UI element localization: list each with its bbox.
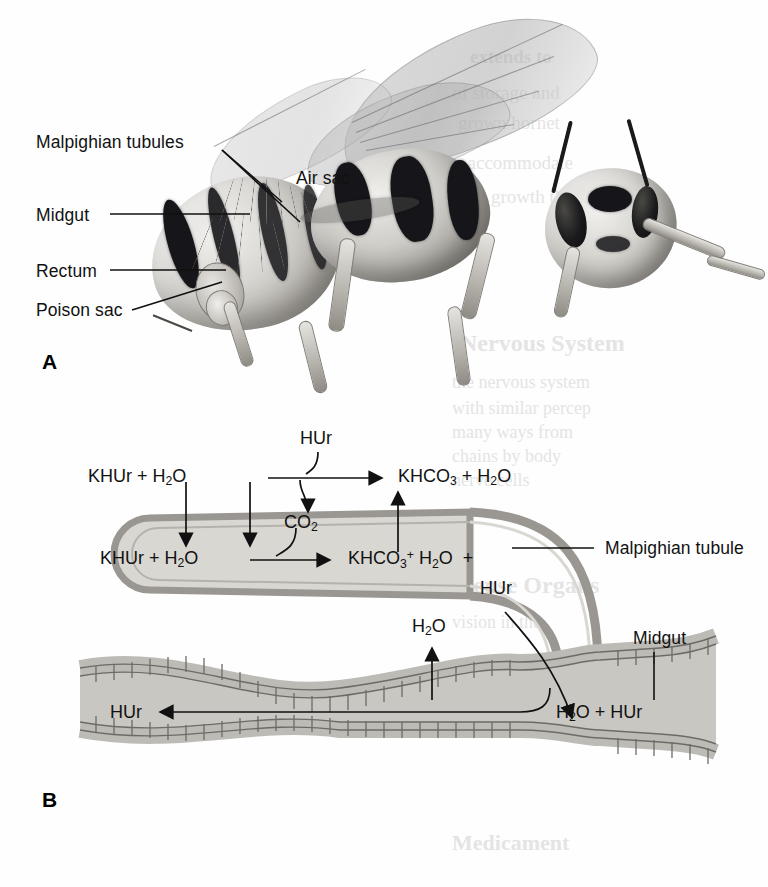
label-malpighian-tubule-b: Malpighian tubule <box>605 538 744 559</box>
tubule-inner-limb <box>470 596 558 662</box>
figure-root: extends toof storage andgrown hornetto a… <box>0 0 768 887</box>
eq-tubule-secreted-hur: HUr <box>480 578 512 599</box>
eq-gut-absorbed-hur: HUr <box>110 702 142 723</box>
eq-gut-lumen-contents: H2O + HUr <box>556 702 642 724</box>
panel-a-hornet-anatomy: Malpighian tubules Air sac Midgut Rectum… <box>0 0 768 400</box>
panel-letter-a: A <box>42 350 57 374</box>
label-midgut-b: Midgut <box>633 628 686 649</box>
panel-b-excretion-schematic: KHUr + H2O HUr CO2 KHCO3 + H2O KHUr + H2… <box>0 400 768 887</box>
eq-tubule-product: KHCO3+ H2O + <box>348 548 473 571</box>
eq-upper-product: KHCO3 + H2O <box>398 466 511 488</box>
label-air-sac: Air sac <box>296 168 350 189</box>
panel-letter-b: B <box>42 788 57 812</box>
label-poison-sac: Poison sac <box>36 300 123 321</box>
eq-upper-reactant: KHUr + H2O <box>88 466 186 488</box>
eq-upper-byproduct-co2: CO2 <box>284 512 318 534</box>
label-malpighian-tubules: Malpighian tubules <box>36 132 184 153</box>
label-midgut-a: Midgut <box>36 205 89 226</box>
eq-gut-water-out: H2O <box>412 616 446 638</box>
label-rectum: Rectum <box>36 261 97 282</box>
eq-tubule-reactant: KHUr + H2O <box>100 548 198 570</box>
eq-upper-catalyst-hur: HUr <box>300 428 332 449</box>
panel-a-leaders <box>0 0 768 400</box>
